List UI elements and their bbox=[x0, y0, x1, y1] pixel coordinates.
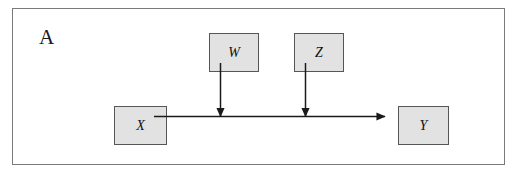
figure-root: A W Z X Y bbox=[0, 0, 518, 173]
panel-label: A bbox=[39, 27, 55, 48]
node-box-w[interactable]: W bbox=[209, 33, 259, 72]
node-label-w: W bbox=[228, 46, 240, 60]
node-label-x: X bbox=[136, 119, 145, 133]
node-label-y: Y bbox=[420, 119, 428, 133]
node-box-y[interactable]: Y bbox=[398, 106, 449, 145]
node-label-z: Z bbox=[315, 46, 323, 60]
node-box-z[interactable]: Z bbox=[294, 33, 344, 72]
node-box-x[interactable]: X bbox=[114, 106, 167, 145]
panel-frame: A W Z X Y bbox=[12, 8, 505, 165]
